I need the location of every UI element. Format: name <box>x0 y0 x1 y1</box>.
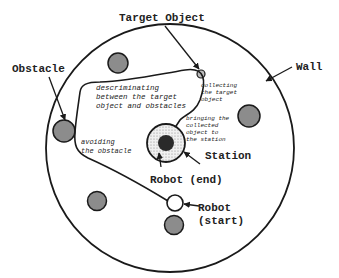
note-discriminating-3: object and obstacles <box>96 102 186 110</box>
note-collecting-3: object <box>201 96 223 103</box>
note-bringing-3: object to <box>186 129 219 136</box>
obstacle-2 <box>53 120 75 142</box>
note-discriminating-1: descriminating <box>96 84 160 92</box>
label-robot-start-2: (start) <box>198 215 244 227</box>
note-collecting-2: the target <box>201 89 237 96</box>
note-avoiding-2: the obstacle <box>81 147 131 155</box>
label-station: Station <box>205 150 251 162</box>
obstacle-5 <box>165 216 184 235</box>
label-obstacle: Obstacle <box>12 63 65 75</box>
robot-end <box>158 135 174 151</box>
label-target-object: Target Object <box>119 12 205 24</box>
note-avoiding-1: avoiding <box>81 138 115 146</box>
obstacle-1 <box>108 53 128 73</box>
note-bringing-4: the station <box>186 136 226 143</box>
obstacle-4 <box>88 192 107 211</box>
label-robot-start-1: Robot <box>198 202 231 214</box>
obstacle-3 <box>238 105 260 127</box>
note-bringing-2: collected <box>186 122 219 129</box>
label-wall: Wall <box>296 61 323 73</box>
label-robot-end: Robot (end) <box>150 174 223 186</box>
note-collecting-1: collecting <box>201 82 237 89</box>
note-discriminating-2: between the target <box>96 93 177 101</box>
note-bringing-1: bringing the <box>186 115 230 122</box>
robot-start <box>167 195 183 211</box>
arena-diagram: Target Object Obstacle Wall Station Robo… <box>0 0 339 278</box>
